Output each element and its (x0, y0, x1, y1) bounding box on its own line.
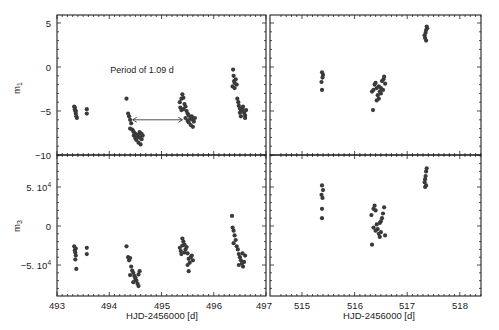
data-point (129, 121, 133, 125)
data-point (424, 39, 428, 43)
data-point (232, 74, 236, 78)
panel-bottom-right (270, 155, 481, 296)
data-point (373, 204, 377, 208)
data-point (85, 107, 89, 111)
data-point (319, 80, 323, 84)
svg-text:518: 518 (452, 300, 468, 311)
data-point (233, 233, 237, 237)
svg-text:497: 497 (256, 300, 272, 311)
xlabel-left: HJD-2456000 [d] (126, 310, 198, 321)
data-point (378, 221, 382, 225)
data-point (129, 265, 133, 269)
data-point (140, 137, 144, 141)
data-point (425, 26, 429, 30)
data-point (73, 105, 77, 109)
x-ticks (281, 155, 481, 296)
ytick-label-bottom-m5e4: −5. 104 (21, 259, 52, 271)
data-point (180, 243, 184, 247)
data-point (424, 174, 428, 178)
data-point (181, 107, 185, 111)
ytick-label-bottom-0: 0 (46, 221, 51, 232)
x-ticks (57, 155, 266, 296)
data-point (381, 211, 385, 215)
data-point (136, 284, 140, 288)
data-point (237, 263, 241, 267)
y-ticks (270, 156, 481, 289)
data-point (85, 246, 89, 250)
data-point (370, 243, 374, 247)
data-point (187, 269, 191, 273)
panel-top-right (270, 15, 481, 155)
data-point (73, 257, 77, 261)
data-point (238, 111, 242, 115)
data-point (320, 88, 324, 92)
svg-text:515: 515 (294, 300, 310, 311)
data-point (85, 252, 89, 256)
data-point (423, 185, 427, 189)
data-point (74, 254, 78, 258)
data-point (381, 88, 385, 92)
data-point (321, 188, 325, 192)
data-point (75, 116, 79, 120)
data-point (128, 273, 132, 277)
data-point (182, 250, 186, 254)
panel-bottom-left (57, 155, 266, 296)
data-points (319, 166, 428, 247)
data-point (131, 280, 135, 284)
data-point (379, 91, 383, 95)
data-points (319, 24, 429, 112)
data-point (186, 119, 190, 123)
data-point (231, 68, 235, 72)
data-point (241, 265, 245, 269)
data-point (371, 108, 375, 112)
data-point (85, 112, 89, 116)
data-point (124, 97, 128, 101)
data-point (240, 251, 244, 255)
ytick-label-top-m10: −10 (35, 150, 51, 161)
data-point (320, 216, 324, 220)
data-point (320, 76, 324, 80)
data-point (185, 245, 189, 249)
figure: 5 0 −5 −10 m1 5. 104 0 −5. 104 m3 493 49… (0, 0, 499, 330)
data-point (241, 105, 245, 109)
data-point (244, 108, 248, 112)
data-point (138, 269, 142, 273)
x-ticks (281, 15, 481, 155)
data-point (383, 233, 387, 237)
data-point (378, 235, 382, 239)
data-point (74, 247, 78, 251)
data-point (190, 254, 194, 258)
data-point (243, 116, 247, 120)
data-point (133, 136, 137, 140)
ylabel-m3: m3 (11, 220, 23, 232)
data-point (369, 213, 373, 217)
data-point (140, 132, 144, 136)
svg-text:494: 494 (101, 300, 117, 311)
data-point (374, 81, 378, 85)
data-point (232, 229, 236, 233)
data-point (191, 258, 195, 262)
data-point (320, 207, 324, 211)
data-points (72, 214, 247, 288)
ytick-label-top-m5: −5 (40, 106, 51, 117)
data-point (235, 83, 239, 87)
data-point (133, 275, 137, 279)
ytick-label-bottom-5e4: 5. 104 (26, 181, 51, 193)
data-point (374, 208, 378, 212)
data-point (191, 125, 195, 129)
svg-text:496: 496 (206, 300, 222, 311)
data-point (181, 96, 185, 100)
y-ticks (57, 156, 266, 289)
data-point (139, 142, 143, 146)
data-point (124, 244, 128, 248)
data-point (377, 84, 381, 88)
plot-frame (57, 155, 266, 296)
data-point (375, 98, 379, 102)
data-point (193, 116, 197, 120)
data-point (128, 256, 132, 260)
data-point (382, 75, 386, 79)
data-points (72, 68, 248, 147)
ylabel-m1: m1 (11, 82, 23, 94)
data-point (379, 230, 383, 234)
data-point (233, 86, 237, 90)
